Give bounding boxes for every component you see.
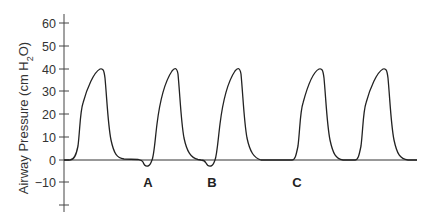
annotation-b: B [207, 175, 216, 190]
annotation-c: C [292, 175, 302, 190]
ytick-minus-10: −10 [35, 176, 56, 190]
pressure-waveform [64, 69, 417, 166]
chart: 60 50 40 30 20 10 0 −10 Airway Pressure … [0, 0, 433, 219]
y-tick-labels: 60 50 40 30 20 10 0 −10 [35, 17, 56, 190]
ytick-60: 60 [42, 17, 56, 31]
ytick-10: 10 [42, 131, 56, 145]
ytick-0: 0 [49, 154, 56, 168]
y-axis-label: Airway Pressure (cm H2O) [16, 42, 35, 194]
ytick-30: 30 [42, 85, 56, 99]
annotation-a: A [143, 175, 153, 190]
ytick-50: 50 [42, 40, 56, 54]
ytick-40: 40 [42, 63, 56, 77]
ytick-20: 20 [42, 108, 56, 122]
